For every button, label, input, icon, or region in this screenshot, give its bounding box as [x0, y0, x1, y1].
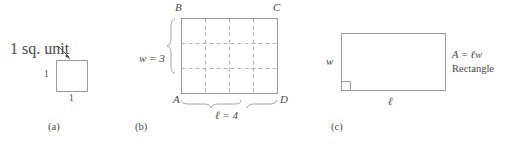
- panel-c-width-label: w: [326, 56, 333, 67]
- right-angle-marker: [342, 82, 351, 91]
- area-formula-label: A = ℓw: [452, 50, 482, 61]
- shape-name-label: Rectangle: [452, 64, 494, 75]
- general-rectangle-shape: [342, 34, 446, 91]
- area-of-rectangle-figure: 1 sq. unit 1 1 (a) w = 3 ℓ = 4 B C A D (…: [0, 0, 509, 147]
- panel-c-tag: (c): [331, 122, 343, 133]
- panel-c-length-label: ℓ: [388, 96, 393, 107]
- panel-c-graphics: [0, 0, 509, 147]
